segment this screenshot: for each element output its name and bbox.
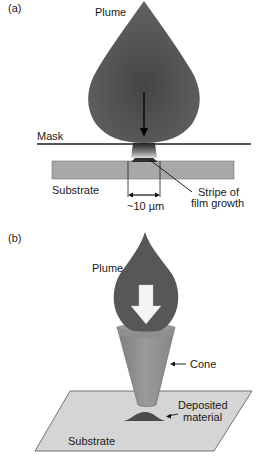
mask-aperture-flux [131, 143, 157, 158]
deposited-label-line1: Deposited [178, 399, 228, 411]
panel-b-label: (b) [8, 232, 21, 244]
dimension-label: ~10 µm [127, 200, 164, 212]
substrate-a [52, 161, 234, 179]
stripe-label-line2: film growth [191, 197, 244, 209]
deposited-label-line2: material [183, 411, 222, 423]
film-stripe [131, 158, 158, 162]
substrate-label-b: Substrate [68, 435, 115, 447]
plume-label-b: Plume [92, 262, 123, 274]
substrate-label-a: Substrate [52, 184, 99, 196]
diagram-canvas: (a) Plume Mask Substrate Stripe of film … [0, 0, 266, 462]
arrow-left-icon [128, 193, 133, 198]
panel-a: (a) Plume Mask Substrate Stripe of film … [8, 1, 251, 212]
panel-a-label: (a) [8, 2, 21, 14]
arrow-left-icon [170, 362, 175, 367]
mask-label: Mask [37, 130, 64, 142]
cone-label: Cone [190, 358, 216, 370]
arrow-right-icon [155, 193, 160, 198]
plume-label-a: Plume [95, 6, 126, 18]
panel-b: (b) Substrate Deposited material Plume C… [8, 232, 252, 451]
